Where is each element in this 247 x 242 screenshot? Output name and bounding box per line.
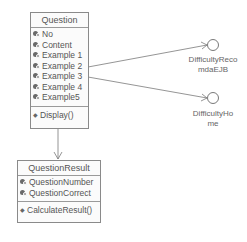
attribute-row: Example 3 [33,71,86,82]
attribute-list: QuestionNumber QuestionCorrect [18,176,100,202]
attribute-row: Content [33,40,86,51]
interface-circle-icon [208,40,219,51]
attribute-row: QuestionNumber [20,177,98,188]
attribute-icon [33,41,41,49]
class-question-result[interactable]: QuestionResult QuestionNumber QuestionCo… [17,160,101,223]
class-title: Question [31,13,88,28]
operation-list: ◆Display() [31,107,88,127]
attribute-icon [33,30,41,38]
operation-icon: ◆ [20,207,26,213]
class-title: QuestionResult [18,161,100,176]
interface-label-difficulty-home[interactable]: DifficultyHo me [183,109,243,129]
attribute-icon [33,83,41,91]
operation-row: ◆Display() [33,110,86,121]
attribute-icon [33,51,41,59]
attribute-row: Example 4 [33,82,86,93]
attribute-icon [33,72,41,80]
class-question[interactable]: Question No Content Example 1 Example 2 … [30,12,89,129]
attribute-row: Example 1 [33,50,86,61]
attribute-row: No [33,29,86,40]
operation-row: ◆CalculateResult() [20,205,98,216]
attribute-row: Example5 [33,92,86,103]
attribute-icon [20,178,28,186]
operation-list: ◆CalculateResult() [18,202,100,222]
interface-circle-icon [208,93,219,104]
interface-label-difficulty-recomda-ejb[interactable]: DifficultyReco mdaEJB [183,55,243,75]
operation-icon: ◆ [33,112,39,118]
attribute-row: QuestionCorrect [20,188,98,199]
attribute-list: No Content Example 1 Example 2 Example 3… [31,28,88,107]
attribute-icon [33,62,41,70]
attribute-icon [33,93,41,101]
attribute-icon [20,189,28,197]
attribute-row: Example 2 [33,61,86,72]
